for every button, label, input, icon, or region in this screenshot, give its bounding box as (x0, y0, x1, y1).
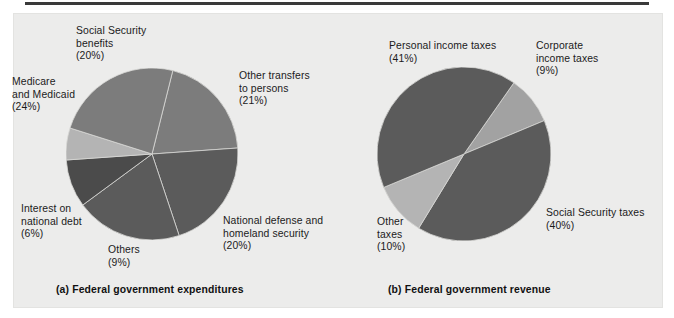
figure-container: Social Security benefits (20%) Medicare … (0, 0, 674, 318)
label-national-defense-homeland-security: National defense and homeland security (… (223, 215, 323, 253)
label-social-security-taxes: Social Security taxes (40%) (546, 207, 645, 232)
top-horizontal-rule (25, 2, 649, 5)
pie-chart-revenue (377, 67, 551, 241)
pie-chart-expenditures (66, 68, 238, 240)
label-corporate-income-taxes: Corporate income taxes (9%) (536, 40, 598, 78)
label-personal-income-taxes: Personal income taxes (41%) (389, 40, 496, 65)
label-others: Others (9%) (108, 244, 140, 269)
label-social-security-benefits: Social Security benefits (20%) (76, 25, 146, 63)
label-other-taxes: Other taxes (10%) (377, 216, 405, 254)
pie-chart-revenue-svg (377, 67, 551, 241)
label-interest-on-national-debt: Interest on national debt (6%) (21, 203, 82, 241)
pie-chart-expenditures-svg (66, 68, 238, 240)
label-other-transfers-to-persons: Other transfers to persons (21%) (239, 70, 310, 108)
label-medicare-and-medicaid: Medicare and Medicaid (24%) (12, 76, 75, 114)
caption-b: (b) Federal government revenue (388, 284, 551, 295)
caption-a: (a) Federal government expenditures (56, 284, 244, 295)
